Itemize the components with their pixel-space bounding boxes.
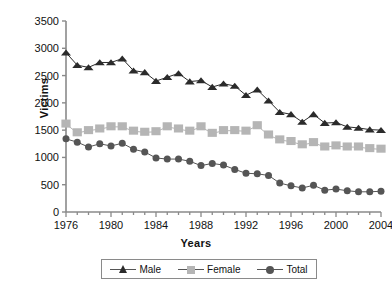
- data-point: [118, 122, 127, 130]
- y-tick-label: 500: [41, 179, 59, 191]
- x-tick-label: 1980: [99, 219, 123, 231]
- data-point: [196, 77, 206, 83]
- data-point: [106, 122, 115, 130]
- data-point: [209, 160, 216, 167]
- legend-line-total: [257, 265, 283, 274]
- data-point: [74, 139, 81, 146]
- x-tick-label: 1976: [54, 219, 78, 231]
- data-point: [342, 124, 352, 130]
- plot-area: 0500100015002000250030003500197619801984…: [0, 0, 392, 240]
- data-point: [175, 156, 182, 163]
- data-point: [254, 170, 261, 177]
- data-point: [84, 126, 93, 134]
- legend-line-female: [178, 265, 204, 274]
- x-tick-label: 1996: [279, 219, 303, 231]
- data-point: [275, 135, 284, 143]
- y-tick-label: 0: [53, 206, 59, 218]
- data-point: [286, 137, 295, 145]
- data-point: [320, 142, 329, 150]
- series-male: [61, 49, 386, 133]
- data-point: [253, 121, 262, 129]
- data-point: [130, 146, 137, 153]
- data-point: [310, 182, 317, 189]
- circle-icon: [266, 266, 274, 274]
- data-point: [321, 187, 328, 194]
- data-point: [343, 142, 352, 150]
- x-tick-label: 2000: [324, 219, 348, 231]
- data-point: [73, 128, 82, 136]
- data-point: [164, 156, 171, 163]
- data-point: [141, 148, 148, 155]
- data-point: [61, 49, 71, 55]
- data-point: [219, 81, 229, 87]
- data-point: [231, 166, 238, 173]
- legend-item-male: Male: [110, 264, 161, 275]
- data-point: [151, 127, 160, 135]
- data-point: [196, 122, 205, 130]
- data-point: [219, 126, 228, 134]
- data-point: [61, 120, 70, 128]
- data-point: [220, 162, 227, 169]
- x-tick-label: 1992: [234, 219, 258, 231]
- data-point: [185, 127, 194, 135]
- legend-item-total: Total: [257, 264, 307, 275]
- data-point: [376, 145, 385, 153]
- data-point: [129, 67, 139, 73]
- legend-label-total: Total: [286, 264, 307, 275]
- legend-line-male: [110, 265, 136, 274]
- data-point: [230, 126, 239, 134]
- y-axis-title: Victims: [38, 58, 50, 138]
- data-point: [174, 70, 184, 76]
- y-tick-label: 3000: [35, 42, 59, 54]
- data-point: [264, 130, 273, 138]
- data-point: [186, 158, 193, 165]
- data-point: [96, 140, 103, 147]
- line-chart: Victims 05001000150020002500300035001976…: [0, 0, 392, 290]
- legend-label-female: Female: [207, 264, 240, 275]
- data-point: [344, 187, 351, 194]
- data-point: [243, 170, 250, 177]
- data-point: [331, 141, 340, 149]
- data-point: [354, 142, 363, 150]
- data-point: [366, 188, 373, 195]
- x-tick-label: 1988: [189, 219, 213, 231]
- data-point: [153, 154, 160, 161]
- data-point: [140, 128, 149, 136]
- data-point: [129, 127, 138, 135]
- data-point: [275, 109, 285, 115]
- data-point: [95, 124, 104, 132]
- y-tick-label: 3500: [35, 15, 59, 27]
- data-point: [63, 135, 70, 142]
- data-point: [108, 142, 115, 149]
- data-point: [309, 138, 318, 146]
- data-point: [355, 188, 362, 195]
- data-point: [298, 140, 307, 148]
- data-point: [119, 140, 126, 147]
- chart-legend: Male Female Total: [101, 259, 317, 279]
- data-point: [117, 55, 127, 61]
- data-point: [72, 62, 82, 68]
- data-point: [333, 186, 340, 193]
- data-point: [264, 97, 274, 103]
- data-point: [288, 182, 295, 189]
- data-point: [241, 127, 250, 135]
- data-point: [299, 184, 306, 191]
- data-point: [208, 129, 217, 137]
- data-point: [252, 87, 262, 93]
- triangle-icon: [119, 265, 127, 273]
- legend-label-male: Male: [139, 264, 161, 275]
- x-axis-title: Years: [0, 237, 392, 249]
- data-point: [309, 111, 319, 117]
- x-tick-label: 2004: [369, 219, 392, 231]
- data-point: [163, 122, 172, 130]
- x-tick-label: 1984: [144, 219, 168, 231]
- y-tick-label: 1000: [35, 151, 59, 163]
- data-point: [162, 74, 172, 80]
- data-point: [276, 180, 283, 187]
- data-point: [85, 144, 92, 151]
- legend-item-female: Female: [178, 264, 240, 275]
- data-point: [198, 162, 205, 169]
- data-point: [265, 172, 272, 179]
- data-point: [174, 124, 183, 132]
- square-icon: [187, 266, 195, 274]
